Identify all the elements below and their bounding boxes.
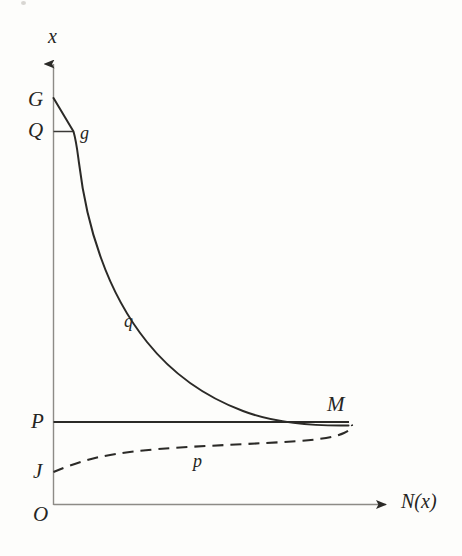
curve-label-p: p (193, 452, 202, 470)
point-label-g-upper: G (28, 89, 43, 110)
point-label-j: J (33, 461, 42, 482)
point-label-m: M (327, 394, 345, 415)
point-label-p-upper: P (31, 411, 44, 432)
curve-q (54, 98, 349, 426)
curve-label-q: q (124, 312, 133, 330)
figure-canvas: x N(x) G Q g q M P J p O (0, 0, 462, 556)
origin-label: O (33, 504, 48, 525)
x-axis-label: N(x) (401, 491, 437, 511)
point-label-q-upper: Q (28, 120, 43, 141)
curve-label-g: g (80, 124, 89, 142)
y-axis-label: x (48, 26, 57, 46)
diagram-svg (0, 0, 462, 556)
curve-p (54, 425, 353, 472)
